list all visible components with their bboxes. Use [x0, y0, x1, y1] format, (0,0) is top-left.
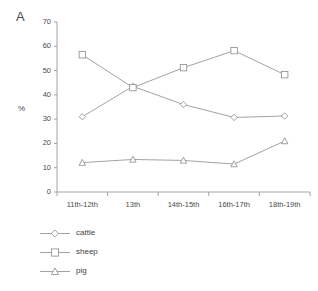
- legend-label: pig: [76, 266, 87, 275]
- legend-item-sheep: sheep: [38, 243, 188, 262]
- y-tick-label: 0: [29, 187, 51, 196]
- y-tick-label: 30: [29, 114, 51, 123]
- legend-label: cattle: [76, 228, 95, 237]
- y-tick-label: 50: [29, 66, 51, 75]
- chart-legend: cattlesheeppig: [38, 224, 188, 281]
- legend-marker-triangle: [38, 262, 72, 281]
- data-point-pig: [282, 138, 288, 144]
- legend-symbol-diamond: [51, 230, 58, 237]
- y-tick-label: 20: [29, 138, 51, 147]
- data-point-cattle: [282, 113, 288, 119]
- data-point-sheep: [130, 84, 136, 90]
- y-axis-title: %: [18, 104, 25, 113]
- series-cattle: [79, 83, 288, 120]
- axes: [54, 22, 310, 196]
- y-tick-label: 10: [29, 163, 51, 172]
- legend-item-pig: pig: [38, 262, 188, 281]
- legend-item-cattle: cattle: [38, 224, 188, 243]
- data-series-group: [79, 47, 288, 166]
- data-point-cattle: [180, 101, 186, 107]
- series-pig: [79, 138, 288, 167]
- series-sheep: [79, 47, 288, 90]
- data-point-cattle: [231, 114, 237, 120]
- data-point-sheep: [180, 64, 186, 70]
- legend-marker-square: [38, 243, 72, 262]
- x-tick-label: 18th-19th: [255, 200, 315, 209]
- legend-symbol-square: [51, 249, 58, 256]
- legend-marker-diamond: [38, 224, 72, 243]
- data-point-sheep: [231, 47, 237, 53]
- legend-label: sheep: [76, 247, 98, 256]
- y-tick-label: 40: [29, 90, 51, 99]
- y-tick-label: 60: [29, 41, 51, 50]
- data-point-sheep: [79, 52, 85, 58]
- data-point-cattle: [79, 114, 85, 120]
- y-tick-label: 70: [29, 17, 51, 26]
- data-point-sheep: [282, 72, 288, 78]
- figure-panel-a: A 010203040506070 11th-12th13th14th-15th…: [0, 0, 318, 291]
